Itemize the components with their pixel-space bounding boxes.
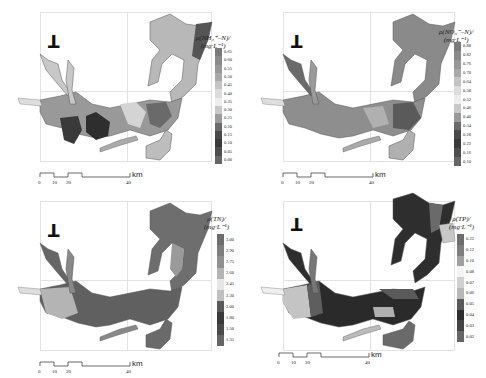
legend-swatch xyxy=(457,234,464,245)
north-arrow-icon: T xyxy=(291,215,303,232)
legend-swatch xyxy=(457,320,464,331)
legend-swatch xyxy=(215,139,222,147)
scale-unit: km xyxy=(371,350,382,359)
legend-swatch xyxy=(457,310,464,321)
legend-swatch xyxy=(217,324,224,335)
legend-swatch xyxy=(457,277,464,288)
north-arrow-icon: T xyxy=(48,32,60,49)
legend-swatch xyxy=(457,245,464,256)
map-panel-tp: T ρ(TP)/ (mg·L⁻¹) 0.220.120.100.080.070.… xyxy=(243,189,486,378)
legend-swatch xyxy=(215,123,222,131)
scale-tick: 20 xyxy=(66,369,71,374)
legend-tick: 0.40 xyxy=(224,92,232,97)
legend-swatch xyxy=(217,256,224,267)
north-arrow-icon: T xyxy=(48,221,60,238)
legend-tick: 0.64 xyxy=(463,80,471,85)
legend-tick: 2.60 xyxy=(226,271,234,276)
legend-tick: 0.76 xyxy=(463,62,471,67)
scale-unit: km xyxy=(375,170,386,179)
legend-tick: 0.04 xyxy=(466,313,474,318)
legend-tick: 0.40 xyxy=(463,115,471,120)
legend-swatch xyxy=(454,130,461,139)
legend-swatch xyxy=(454,148,461,157)
legend-tick: 0.52 xyxy=(463,98,471,103)
estuary-map-nh4 xyxy=(0,0,243,189)
legend-tick: 1.35 xyxy=(226,338,234,343)
legend-tick: 0.15 xyxy=(224,133,232,138)
scale-tick: 20 xyxy=(309,180,314,185)
legend-tick: 2.00 xyxy=(226,305,234,310)
legend-tick: 0.00 xyxy=(224,158,232,163)
legend-swatch xyxy=(217,245,224,256)
legend-tick: 0.10 xyxy=(463,160,471,165)
legend-swatch xyxy=(457,331,464,342)
legend-swatch xyxy=(454,42,461,51)
legend-swatch xyxy=(215,156,222,164)
scale-tick: 20 xyxy=(66,180,71,185)
legend-swatch xyxy=(215,89,222,97)
scale-tick: 40 xyxy=(126,369,131,374)
legend-swatch xyxy=(215,98,222,106)
legend-title: ρ(NH₄⁺–N)/ (mg·L⁻¹) xyxy=(196,34,230,50)
scale-tick: 40 xyxy=(365,360,370,365)
legend-tick: 0.07 xyxy=(466,281,474,286)
legend-tick: 0.16 xyxy=(463,151,471,156)
legend-tick: 0.60 xyxy=(224,58,232,63)
legend-tick: 0.45 xyxy=(224,83,232,88)
legend-tick: 0.22 xyxy=(466,237,474,242)
legend-swatch xyxy=(454,157,461,166)
map-panel-no3: T ρ(NO₃⁻–N)/ (mg·L⁻¹) 0.880.820.760.700.… xyxy=(243,0,486,189)
legend-swatch xyxy=(215,81,222,89)
north-arrow-icon: T xyxy=(291,32,303,49)
legend-title: ρ(TP)/ (mg·L⁻¹) xyxy=(449,215,474,231)
legend-title: ρ(TN)/ (mg·L⁻¹) xyxy=(204,215,229,231)
scale-tick: 0 xyxy=(38,369,41,374)
scale-tick: 0 xyxy=(281,180,284,185)
legend-tick: 0.50 xyxy=(224,75,232,80)
legend-swatch xyxy=(454,139,461,148)
legend-tick: 0.02 xyxy=(466,335,474,340)
legend-tick: 0.34 xyxy=(463,124,471,129)
legend-swatch xyxy=(454,60,461,69)
legend-tick: 0.30 xyxy=(224,108,232,113)
scale-unit: km xyxy=(132,359,143,368)
legend-swatch xyxy=(454,122,461,131)
legend-swatch xyxy=(217,268,224,279)
legend-tick: 0.08 xyxy=(466,270,474,275)
legend-tick: 0.65 xyxy=(224,50,232,55)
legend-swatch xyxy=(454,77,461,86)
legend-tick: 2.90 xyxy=(226,249,234,254)
legend-swatch xyxy=(215,147,222,155)
scale-tick: 0 xyxy=(277,360,280,365)
color-legend-bar xyxy=(217,234,224,346)
legend-tick: 0.06 xyxy=(466,291,474,296)
color-legend-bar xyxy=(454,42,461,166)
legend-tick: 2.45 xyxy=(226,282,234,287)
legend-tick: 1.50 xyxy=(226,327,234,332)
legend-swatch xyxy=(457,288,464,299)
legend-tick: 1.80 xyxy=(226,316,234,321)
legend-tick: 0.58 xyxy=(463,89,471,94)
legend-tick: 0.22 xyxy=(463,142,471,147)
color-legend-bar xyxy=(215,48,222,164)
scale-tick: 10 xyxy=(291,360,296,365)
legend-tick: 0.12 xyxy=(466,248,474,253)
scale-tick: 0 xyxy=(38,180,41,185)
legend-tick: 0.46 xyxy=(463,106,471,111)
legend-swatch xyxy=(454,95,461,104)
legend-swatch xyxy=(217,279,224,290)
legend-swatch xyxy=(454,69,461,78)
legend-tick: 0.82 xyxy=(463,53,471,58)
legend-tick: 3.00 xyxy=(226,238,234,243)
scale-tick: 10 xyxy=(52,369,57,374)
legend-tick: 0.05 xyxy=(224,150,232,155)
legend-swatch xyxy=(454,51,461,60)
legend-tick: 0.20 xyxy=(224,125,232,130)
map-panel-nh4: T ρ(NH₄⁺–N)/ (mg·L⁻¹) 0.650.600.550.500.… xyxy=(0,0,243,189)
legend-swatch xyxy=(457,256,464,267)
scale-tick: 40 xyxy=(369,180,374,185)
legend-tick: 0.05 xyxy=(466,302,474,307)
legend-swatch xyxy=(217,290,224,301)
legend-tick: 2.30 xyxy=(226,294,234,299)
legend-swatch xyxy=(217,301,224,312)
